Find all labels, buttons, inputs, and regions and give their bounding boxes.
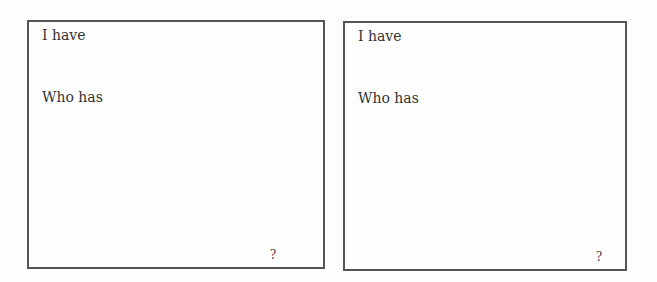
game-card-1: I have Who has ?	[27, 20, 325, 269]
i-have-label: I have	[358, 28, 402, 44]
game-card-2: I have Who has ?	[343, 21, 627, 271]
answer-placeholder: ?	[596, 249, 602, 265]
who-has-label: Who has	[42, 89, 103, 105]
who-has-label: Who has	[358, 90, 419, 106]
answer-placeholder: ?	[270, 247, 276, 263]
i-have-label: I have	[42, 27, 86, 43]
